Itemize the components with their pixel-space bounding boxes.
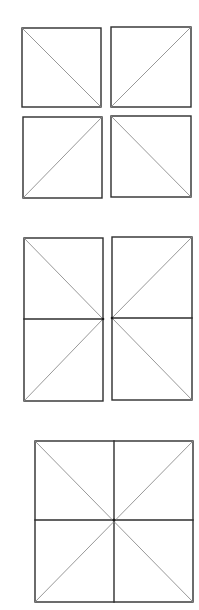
vertex-dot-left [102, 318, 105, 321]
square-bottom-right [111, 116, 191, 197]
group-combined-square [35, 441, 193, 602]
square-top-right [111, 27, 191, 107]
square-top-left [22, 28, 101, 107]
diagram-canvas [0, 0, 199, 610]
group-two-rectangles [24, 237, 192, 401]
group-four-squares [22, 27, 191, 198]
center-dot [112, 518, 115, 521]
rectangle-left [24, 238, 104, 401]
rectangle-right [111, 237, 192, 400]
vertex-dot-right [111, 317, 114, 320]
square-bottom-left [23, 117, 102, 198]
